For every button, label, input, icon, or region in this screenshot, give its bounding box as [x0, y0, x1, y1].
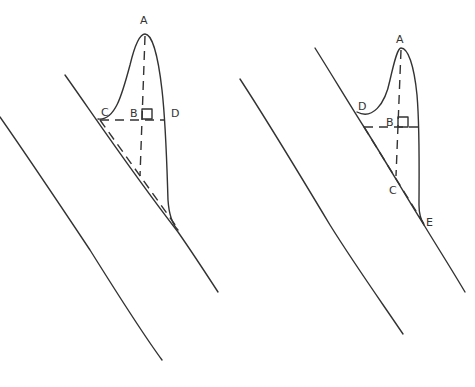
- right-label-a: A: [396, 33, 404, 46]
- right-label-c: C: [389, 184, 397, 197]
- right-label-e: E: [426, 216, 433, 229]
- right-label-b: B: [386, 116, 394, 129]
- left-shore-line: [65, 75, 218, 292]
- left-right-angle-marker: [142, 109, 152, 119]
- right-right-angle-marker: [398, 117, 408, 127]
- left-label-b: B: [130, 107, 138, 120]
- left-label-c: C: [101, 106, 109, 119]
- right-figure: A D B C E: [240, 33, 465, 334]
- left-outer-line: [0, 117, 162, 360]
- left-figure: A C B D: [0, 14, 218, 360]
- left-spit-curve: [98, 34, 178, 230]
- right-outer-line: [240, 79, 403, 334]
- left-label-a: A: [140, 14, 148, 27]
- right-dashed-vertical-ac: [396, 50, 401, 176]
- geometry-diagram: A C B D A D B C E: [0, 0, 475, 387]
- left-dashed-diagonal: [100, 120, 176, 226]
- right-spit-curve: [357, 48, 424, 225]
- left-dashed-vertical-ab: [140, 36, 145, 176]
- right-label-d: D: [358, 100, 366, 113]
- left-label-d: D: [171, 107, 179, 120]
